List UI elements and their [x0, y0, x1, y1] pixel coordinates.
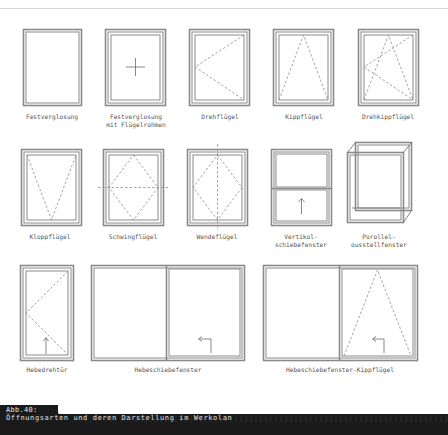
label-parallelausstellfenster-2: ousstellfenster [339, 241, 419, 249]
figure-number: Abb.40: [6, 406, 38, 414]
symbol-kippfluegel [274, 30, 334, 106]
label-kippfluegel: Kippflügel [264, 113, 344, 121]
label-drehkippfluegel: Drehkippflügel [348, 113, 428, 121]
symbol-festverglasung-fluegelrahmen [106, 30, 166, 106]
label-festverglasung-fluegelrahmen-1: Festverglosung [96, 113, 176, 121]
symbol-hebeschiebefenster [92, 266, 245, 361]
label-vertikalschiebefenster-2: schiebefenster [261, 241, 341, 249]
symbol-drehfluegel [190, 30, 250, 106]
symbol-parallelausstellfenster [348, 143, 412, 223]
label-schwingfluegel: Schwingflügel [93, 233, 173, 241]
label-vertikalschiebefenster-1: Vertikol- [261, 233, 341, 241]
label-parallelausstellfenster-1: Porollel- [339, 233, 419, 241]
symbol-festverglasung [24, 30, 82, 106]
label-festverglasung-fluegelrahmen-2: mit Flügelrohmen [96, 121, 176, 129]
label-wendefluegel: Wendeflügel [177, 233, 257, 241]
symbol-wendefluegel [188, 144, 248, 230]
label-drehfluegel: Drehflügel [180, 113, 260, 121]
figure-caption: Öffnungsarten und deren Darstellung im W… [6, 414, 232, 422]
opening-types-drawing: .of { fill: none; stroke: #8a8a8a; strok… [0, 0, 448, 405]
symbol-hebeschiebefenster-kippfluegel [264, 266, 418, 361]
symbol-hebedrehtuer [21, 266, 74, 361]
symbol-klappfluegel [22, 150, 82, 226]
label-hebeschiebefenster-kippfluegel: Hebeschiebefenster-Kippflügel [280, 366, 400, 374]
symbol-schwingfluegel [98, 150, 168, 226]
arrow-left-shaft [373, 339, 384, 353]
symbol-drehkippfluegel [359, 30, 419, 106]
label-festverglasung: Festverglosung [12, 113, 92, 121]
label-hebedrehtuer: Hebedrehtür [7, 366, 87, 374]
label-hebeschiebefenster: Hebeschiebefenster [118, 366, 218, 374]
symbol-vertikalschiebefenster [272, 150, 332, 226]
label-klappfluegel: Kloppflügel [10, 233, 90, 241]
